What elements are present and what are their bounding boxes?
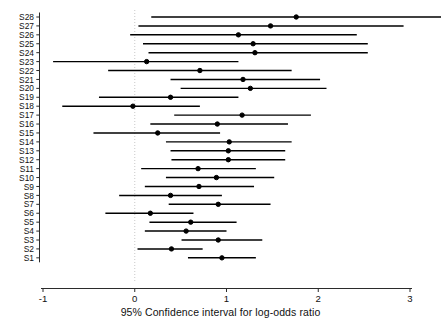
forest-row: S19: [19, 92, 238, 102]
forest-row: S26: [19, 30, 357, 40]
estimate-marker: [168, 95, 172, 99]
forest-row: S17: [19, 110, 311, 120]
estimate-marker: [226, 158, 230, 162]
estimate-marker: [148, 211, 152, 215]
estimate-marker: [215, 122, 219, 126]
estimate-marker: [294, 15, 298, 19]
forest-row: S22: [19, 66, 292, 76]
estimate-marker: [227, 140, 231, 144]
forest-row: S12: [19, 155, 285, 165]
estimate-marker: [241, 77, 245, 81]
estimate-marker: [197, 184, 201, 188]
estimate-marker: [248, 86, 252, 90]
forest-row: S18: [19, 101, 200, 111]
forest-row: S4: [24, 226, 227, 236]
forest-row: S24: [19, 48, 368, 58]
estimate-marker: [220, 256, 224, 260]
estimate-marker: [253, 50, 257, 54]
x-axis-tick-label: 3: [407, 293, 412, 304]
forest-row: S27: [19, 21, 403, 31]
estimate-marker: [236, 33, 240, 37]
estimate-marker: [226, 149, 230, 153]
forest-row: S10: [19, 173, 274, 183]
estimate-marker: [168, 193, 172, 197]
estimate-marker: [240, 113, 244, 117]
estimate-marker: [169, 247, 173, 251]
estimate-marker: [155, 131, 159, 135]
forest-row: S25: [19, 39, 368, 49]
forest-row: S9: [24, 182, 254, 192]
estimate-marker: [196, 166, 200, 170]
x-axis-tick-label: -1: [39, 293, 48, 304]
forest-plot-canvas: S28S27S26S25S24S23S22S21S20S19S18S17S16S…: [0, 0, 441, 330]
forest-row: S20: [19, 83, 326, 93]
forest-row: S21: [19, 75, 320, 85]
forest-row: S6: [24, 208, 194, 218]
forest-row: S5: [24, 217, 237, 227]
forest-row: S3: [24, 235, 263, 245]
forest-row: S13: [19, 146, 285, 156]
forest-plot: S28S27S26S25S24S23S22S21S20S19S18S17S16S…: [0, 0, 441, 330]
forest-row: S28: [19, 12, 441, 22]
forest-row: S2: [24, 244, 203, 254]
estimate-marker: [184, 229, 188, 233]
forest-row: S15: [19, 128, 220, 138]
estimate-marker: [216, 202, 220, 206]
forest-row: S14: [19, 137, 292, 147]
x-axis-tick-label: 1: [224, 293, 229, 304]
estimate-marker: [144, 59, 148, 63]
forest-row: S7: [24, 199, 271, 209]
category-label: S1: [24, 253, 35, 263]
forest-row: S11: [20, 164, 256, 174]
estimate-marker: [251, 42, 255, 46]
estimate-marker: [214, 175, 218, 179]
x-axis-title: 95% Confidence interval for log-odds rat…: [0, 306, 441, 318]
x-axis-tick-label: 2: [316, 293, 321, 304]
forest-row: S16: [19, 119, 288, 129]
estimate-marker: [216, 238, 220, 242]
estimate-marker: [189, 220, 193, 224]
estimate-marker: [198, 68, 202, 72]
forest-row: S23: [19, 57, 238, 67]
forest-row: S8: [24, 191, 222, 201]
estimate-marker: [131, 104, 135, 108]
forest-row: S1: [24, 253, 256, 263]
x-axis-tick-label: 0: [132, 293, 137, 304]
estimate-marker: [268, 24, 272, 28]
